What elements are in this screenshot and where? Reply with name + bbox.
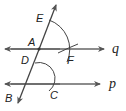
label-a: A bbox=[27, 36, 35, 48]
point-a-dot bbox=[38, 48, 41, 51]
arc-d-c bbox=[35, 62, 55, 91]
label-e: E bbox=[36, 12, 44, 24]
label-p: p bbox=[108, 76, 116, 91]
label-f: F bbox=[67, 54, 75, 66]
label-q: q bbox=[112, 41, 119, 56]
label-d: D bbox=[21, 54, 29, 66]
label-b: B bbox=[5, 92, 12, 104]
parallel-lines-construction-diagram: E A D F B C q p bbox=[0, 0, 126, 111]
label-c: C bbox=[50, 89, 58, 101]
